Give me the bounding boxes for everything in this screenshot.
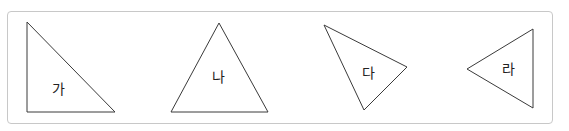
- triangle-ga: 가: [27, 22, 115, 112]
- triangle-na-shape: [171, 23, 268, 112]
- triangle-da-label: 다: [362, 65, 375, 81]
- triangle-na-label: 나: [212, 69, 225, 85]
- triangle-na: 나: [171, 23, 268, 112]
- triangle-figure: 가 나 다 라: [0, 0, 569, 131]
- triangle-da: 다: [324, 25, 407, 110]
- triangle-ra: 라: [467, 29, 533, 108]
- triangles-canvas: 가 나 다 라: [0, 0, 569, 131]
- triangle-ra-label: 라: [502, 61, 515, 77]
- triangle-ga-shape: [27, 22, 115, 112]
- triangle-ga-label: 가: [52, 81, 65, 97]
- triangle-ra-shape: [467, 29, 533, 108]
